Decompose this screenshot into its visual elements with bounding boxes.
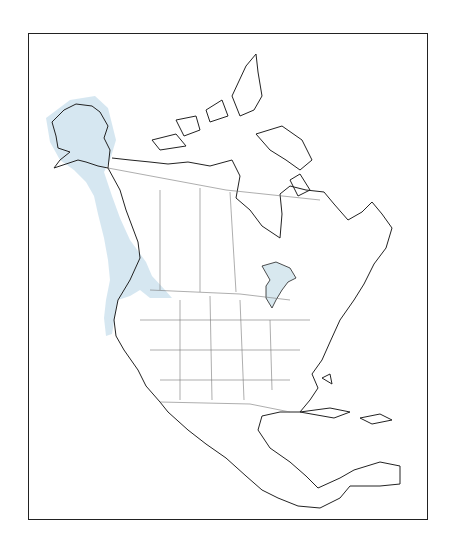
caribbean-islands bbox=[300, 374, 392, 424]
baffin-island-outline bbox=[256, 126, 312, 170]
continent-outline bbox=[108, 158, 400, 508]
north-america-map bbox=[0, 0, 457, 553]
great-lakes bbox=[262, 262, 296, 308]
species-range-area bbox=[46, 96, 172, 336]
arctic-islands-outline bbox=[152, 54, 310, 196]
